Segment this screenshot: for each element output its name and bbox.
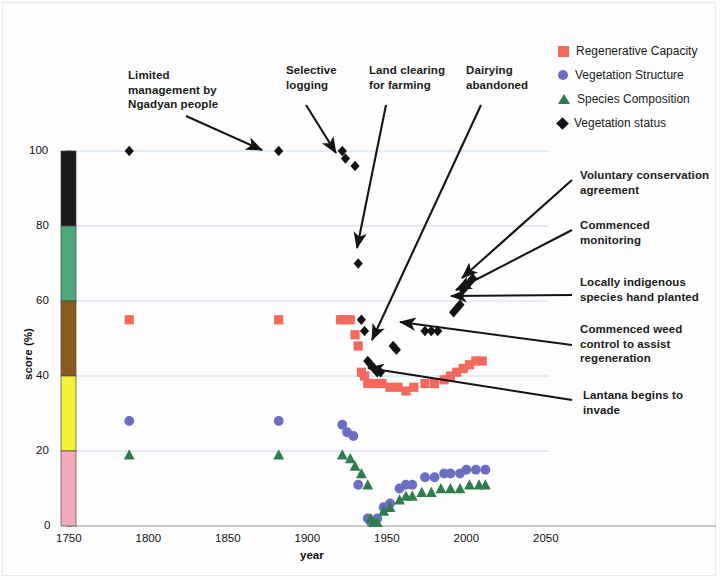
legend-label: Regenerative Capacity: [576, 44, 697, 58]
x-axis-title: year: [300, 549, 324, 561]
annotation-line: Voluntary conservation: [580, 168, 709, 183]
x-tick-2050: 2050: [533, 532, 559, 544]
data-point: [464, 479, 475, 489]
annotation-line: Dairying: [466, 63, 528, 78]
data-point: [360, 326, 369, 336]
annotation-commenced-monitoring: Commencedmonitoring: [580, 218, 650, 247]
annotation-line: Selective: [286, 63, 337, 78]
data-point: [401, 386, 410, 395]
arrow-commenced-monitoring: [456, 230, 572, 290]
data-point: [274, 146, 283, 156]
data-point: [445, 483, 456, 493]
annotation-line: Locally indigenous: [580, 275, 699, 290]
data-point: [426, 487, 437, 497]
annotation-line: invade: [583, 403, 683, 418]
y-tick-80: 80: [36, 219, 49, 231]
annotation-line: Commenced weed: [580, 322, 682, 337]
data-point: [416, 487, 427, 497]
legend-marker-triangle-icon: [558, 94, 570, 104]
annotation-line: Lantana begins to: [583, 388, 683, 403]
data-point: [125, 315, 134, 324]
x-tick-1800: 1800: [136, 532, 162, 544]
colorbar-segment-4: [61, 451, 76, 526]
x-tick-1950: 1950: [374, 532, 400, 544]
legend-label: Vegetation status: [574, 116, 666, 130]
data-point: [435, 483, 446, 493]
data-point: [354, 341, 363, 350]
data-point: [357, 315, 366, 325]
legend-marker-diamond-icon: [556, 117, 569, 130]
annotation-line: logging: [286, 78, 337, 93]
legend-item-square[interactable]: Regenerative Capacity: [558, 44, 697, 58]
legend-marker-circle-icon: [558, 70, 568, 80]
data-point: [377, 379, 386, 388]
x-tick-1850: 1850: [215, 532, 241, 544]
data-point: [350, 330, 359, 339]
data-point: [385, 383, 394, 392]
legend-item-circle[interactable]: Vegetation Structure: [558, 68, 684, 82]
data-point: [362, 479, 373, 489]
data-point: [393, 383, 402, 392]
y-tick-40: 40: [36, 369, 49, 381]
y-tick-100: 100: [29, 144, 48, 156]
annotation-line: Commenced: [580, 218, 650, 233]
legend-item-triangle[interactable]: Species Composition: [558, 92, 690, 106]
arrow-land-clearing: [357, 105, 386, 248]
data-point: [349, 431, 359, 441]
annotation-line: regeneration: [580, 351, 682, 366]
data-point: [274, 416, 284, 426]
data-point: [346, 315, 355, 324]
data-point: [461, 465, 471, 475]
annotation-line: abandoned: [466, 78, 528, 93]
data-point: [471, 465, 481, 475]
series-vegetation-structure: [124, 416, 490, 527]
data-point: [350, 161, 359, 171]
data-point: [125, 146, 134, 156]
data-point: [353, 480, 363, 490]
annotation-dairying-abandoned: Dairyingabandoned: [466, 63, 528, 92]
annotation-commenced-weed-control: Commenced weedcontrol to assistregenerat…: [580, 322, 682, 366]
arrow-locally-indigenous: [451, 295, 572, 296]
data-point: [124, 416, 134, 426]
legend-label: Species Composition: [577, 92, 690, 106]
y-tick-0: 0: [44, 519, 50, 531]
arrow-dairying-abandoned: [372, 105, 481, 340]
data-point: [274, 315, 283, 324]
gridlines: [72, 151, 549, 451]
data-point: [481, 465, 491, 475]
data-point: [407, 480, 417, 490]
annotation-selective-logging: Selectivelogging: [286, 63, 337, 92]
colorbar-segment-2: [61, 301, 76, 376]
y-tick-20: 20: [36, 444, 49, 456]
arrow-selective-logging: [306, 105, 336, 153]
annotation-line: control to assist: [580, 337, 682, 352]
data-point: [420, 472, 430, 482]
x-tick-2000: 2000: [454, 532, 480, 544]
annotation-voluntary-conservation: Voluntary conservationagreement: [580, 168, 709, 197]
data-point: [430, 472, 440, 482]
data-point: [354, 258, 363, 268]
x-tick-1900: 1900: [295, 532, 321, 544]
colorbar-segment-3: [61, 376, 76, 451]
arrow-limited-management: [186, 116, 262, 150]
data-point: [409, 383, 418, 392]
y-axis-title: score (%): [22, 328, 34, 380]
annotation-lantana-invade: Lantana begins toinvade: [583, 388, 683, 417]
annotation-line: Ngadyan people: [128, 97, 218, 112]
colorbar-segment-1: [61, 226, 76, 301]
colorbar-segment-0: [61, 151, 76, 226]
series-vegetation-status: [125, 146, 478, 378]
series-species-composition: [124, 449, 491, 527]
annotation-land-clearing: Land clearingfor farming: [369, 63, 445, 92]
chart-canvas: 1750180018501900195020002050 02040608010…: [0, 0, 720, 580]
data-point: [430, 379, 439, 388]
data-point: [370, 379, 379, 388]
annotation-line: species hand planted: [580, 290, 699, 305]
data-point: [446, 469, 456, 479]
annotation-line: Land clearing: [369, 63, 445, 78]
score-colorbar: [61, 151, 76, 526]
annotation-line: Limited: [128, 68, 218, 83]
data-point: [478, 356, 487, 365]
legend-item-diamond[interactable]: Vegetation status: [558, 116, 666, 130]
x-tick-1750: 1750: [56, 532, 82, 544]
